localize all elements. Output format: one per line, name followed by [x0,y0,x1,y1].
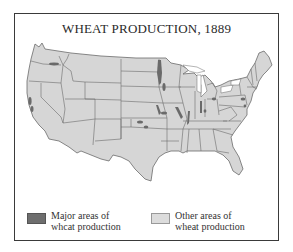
legend-item-other: Other areas of wheat production [151,210,245,232]
wheat-area-california-1 [28,97,31,105]
us-map [15,14,280,242]
wheat-area-kansas-2 [144,125,149,128]
wheat-area-missouri [161,112,167,115]
wheat-area-washington [49,63,59,66]
legend-swatch-major [27,213,46,224]
wheat-area-ohio-2 [204,109,207,113]
wheat-area-ohio [212,98,216,101]
legend-item-major: Major areas of whcat production [27,210,121,232]
wheat-area-kansas-1 [137,120,143,123]
wheat-area-minnesota [162,83,165,91]
legend-label-major: Major areas of whcat production [51,210,121,232]
wheat-area-pennsylvania [241,98,246,101]
wheat-area-maryland [244,105,247,108]
wheat-area-indiana [200,101,202,113]
legend-swatch-other [151,213,170,224]
legend-label-other: Other areas of wheat production [175,210,245,232]
wheat-area-california-2 [31,106,34,112]
map-frame: WHEAT PRODUCTION, 1889 [14,13,279,241]
